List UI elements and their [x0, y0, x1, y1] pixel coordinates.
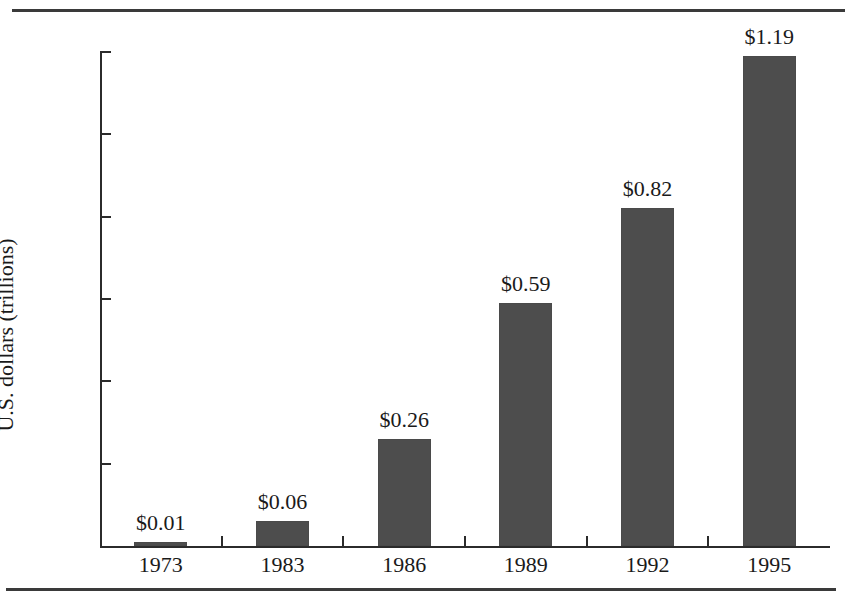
y-axis-tick: [100, 298, 111, 300]
x-axis-tick: [342, 536, 344, 547]
bar-value-label: $0.06: [223, 491, 343, 513]
bar-chart-figure: U.S. dollars (trillions) 1.201.000.800.6…: [0, 0, 845, 599]
bar: [621, 208, 674, 546]
x-axis-category-label: 1983: [223, 553, 343, 577]
x-axis-tick: [707, 536, 709, 547]
bar-value-label: $0.01: [101, 512, 221, 534]
y-axis-tick: [100, 51, 111, 53]
figure-rule-top: [12, 9, 845, 12]
x-axis-tick: [464, 536, 466, 547]
x-axis-category-label: 1973: [101, 553, 221, 577]
y-axis-tick: [100, 380, 111, 382]
y-axis-tick: [100, 463, 111, 465]
x-axis-category-label: 1995: [709, 553, 829, 577]
x-axis-tick: [221, 536, 223, 547]
figure-rule-bottom: [6, 588, 836, 591]
x-axis-category-label: 1989: [466, 553, 586, 577]
bar-value-label: $0.82: [588, 178, 708, 200]
y-axis-title: U.S. dollars (trillions): [0, 175, 18, 495]
bar: [743, 56, 796, 546]
bar-value-label: $0.59: [466, 273, 586, 295]
x-axis-tick: [586, 536, 588, 547]
y-axis-line: [100, 52, 102, 548]
y-axis-tick: [100, 133, 111, 135]
bar: [378, 439, 431, 546]
bar: [134, 542, 187, 546]
bar: [499, 303, 552, 546]
x-axis-category-label: 1992: [588, 553, 708, 577]
x-axis-category-label: 1986: [344, 553, 464, 577]
bar-value-label: $0.26: [344, 409, 464, 431]
bar-value-label: $1.19: [709, 26, 829, 48]
y-axis-tick: [100, 216, 111, 218]
bar: [256, 521, 309, 546]
